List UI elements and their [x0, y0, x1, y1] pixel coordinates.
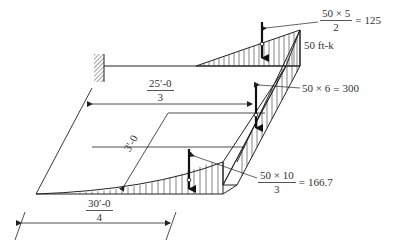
mid-moment-label: 50 × 6=300	[302, 83, 359, 95]
left-extension-line	[36, 88, 92, 194]
frame-diagram	[0, 0, 397, 242]
fixed-support-wall-icon	[94, 54, 104, 82]
leader-mid	[259, 85, 300, 88]
top-moment-diagram	[196, 30, 300, 66]
bottom-moment-diagram	[36, 162, 223, 194]
force-arrow-icon	[260, 22, 264, 58]
sloped-member	[223, 66, 286, 185]
top-moment-label: 50 × 52=125	[320, 8, 381, 33]
leader-top	[266, 22, 318, 28]
dimension-bottom-label: 30′-04	[86, 198, 113, 223]
tip-moment-label: 50 ft-k	[304, 40, 334, 51]
leader-bottom	[194, 156, 257, 178]
dimension-top-label: 25′-03	[147, 78, 174, 103]
bottom-moment-label: 50 × 103=166.7	[258, 170, 333, 195]
